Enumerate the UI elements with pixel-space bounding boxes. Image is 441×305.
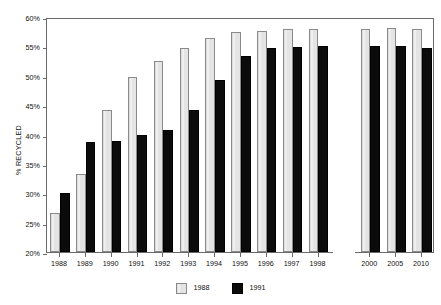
bar-1991-1997 xyxy=(293,47,303,252)
x-tick-label: 1994 xyxy=(201,259,227,268)
x-tick xyxy=(137,253,138,257)
bar-1991-1990 xyxy=(112,141,122,252)
x-tick xyxy=(162,253,163,257)
bar-group xyxy=(280,19,306,252)
bar-group xyxy=(125,19,151,252)
y-tick-label: 50% xyxy=(8,74,40,81)
x-tick xyxy=(318,253,319,257)
x-tick-label: 1995 xyxy=(227,259,253,268)
x-tick-label: 1998 xyxy=(305,259,331,268)
x-tick xyxy=(188,253,189,257)
bar-1988-2005 xyxy=(387,28,397,252)
bar-1988-1993 xyxy=(180,48,190,252)
bar-1988-1997 xyxy=(283,29,293,252)
y-tick-label: 55% xyxy=(8,44,40,51)
y-tick-label: 35% xyxy=(8,162,40,169)
bar-1991-2010 xyxy=(422,48,432,252)
legend-label: 1988 xyxy=(194,284,210,292)
bar-1988-1996 xyxy=(257,31,267,252)
bar-1988-1995 xyxy=(231,32,241,252)
bar-group xyxy=(99,19,125,252)
x-tick xyxy=(292,253,293,257)
x-tick-label: 1989 xyxy=(72,259,98,268)
x-tick xyxy=(395,253,396,257)
bar-1991-1992 xyxy=(163,130,173,252)
recycling-bar-chart: % RECYCLED 60%55%50%45%40%35%30%25%20% 1… xyxy=(0,0,441,305)
bar-group xyxy=(254,19,280,252)
legend-swatch-icon xyxy=(232,283,243,294)
legend-label: 1991 xyxy=(250,284,266,292)
bar-1991-1994 xyxy=(215,80,225,252)
x-tick xyxy=(111,253,112,257)
x-tick-label: 1991 xyxy=(124,259,150,268)
bar-1988-1991 xyxy=(128,77,138,252)
chart-legend: 19881991 xyxy=(0,280,441,296)
x-tick-label: 1990 xyxy=(98,259,124,268)
bars-layer xyxy=(47,19,433,252)
x-tick xyxy=(85,253,86,257)
bar-group xyxy=(306,19,332,252)
bar-group xyxy=(383,19,409,252)
x-tick-label: 2000 xyxy=(356,259,382,268)
bar-1991-1993 xyxy=(189,110,199,252)
bar-group xyxy=(409,19,435,252)
legend-item-1991: 1991 xyxy=(232,283,266,294)
y-tick-label: 60% xyxy=(8,15,40,22)
bar-group xyxy=(176,19,202,252)
x-tick-label: 1992 xyxy=(149,259,175,268)
legend-swatch-icon xyxy=(176,283,187,294)
bar-group xyxy=(150,19,176,252)
bar-1991-2005 xyxy=(396,46,406,252)
bar-1988-1994 xyxy=(205,38,215,252)
bar-1988-1990 xyxy=(102,110,112,252)
bar-1988-1992 xyxy=(154,61,164,252)
y-tick-label: 20% xyxy=(8,250,40,257)
x-tick-label: 1993 xyxy=(175,259,201,268)
x-axis-ticks xyxy=(46,253,434,258)
bar-group xyxy=(228,19,254,252)
x-tick xyxy=(421,253,422,257)
x-tick xyxy=(266,253,267,257)
bar-1991-1998 xyxy=(318,46,328,252)
y-tick-label: 45% xyxy=(8,103,40,110)
bar-1991-1988 xyxy=(60,193,70,252)
x-tick-label: 1988 xyxy=(46,259,72,268)
bar-1988-1988 xyxy=(50,213,60,252)
y-tick-label: 40% xyxy=(8,133,40,140)
x-tick xyxy=(59,253,60,257)
bar-1988-2010 xyxy=(412,29,422,252)
y-tick-label: 25% xyxy=(8,221,40,228)
x-tick xyxy=(214,253,215,257)
bar-group xyxy=(357,19,383,252)
bar-1988-1998 xyxy=(309,29,319,252)
bar-group xyxy=(73,19,99,252)
x-axis-labels: 1988198919901991199219931994199519961997… xyxy=(46,259,434,271)
bar-1991-1995 xyxy=(241,56,251,252)
legend-item-1988: 1988 xyxy=(176,283,210,294)
y-axis-title: % RECYCLED xyxy=(14,75,26,175)
x-tick xyxy=(240,253,241,257)
x-tick-label: 1996 xyxy=(253,259,279,268)
x-tick-label: 1997 xyxy=(279,259,305,268)
x-tick xyxy=(369,253,370,257)
x-tick-label: 2005 xyxy=(382,259,408,268)
plot-area: 60%55%50%45%40%35%30%25%20% xyxy=(46,18,434,253)
bar-group xyxy=(47,19,73,252)
bar-1988-1989 xyxy=(76,174,86,252)
bar-1991-2000 xyxy=(370,46,380,252)
bar-1991-1991 xyxy=(137,135,147,253)
bar-1991-1989 xyxy=(86,142,96,252)
y-tick-label: 30% xyxy=(8,191,40,198)
x-tick-label: 2010 xyxy=(408,259,434,268)
bar-1991-1996 xyxy=(267,48,277,252)
bar-group xyxy=(202,19,228,252)
bar-1988-2000 xyxy=(361,29,371,252)
